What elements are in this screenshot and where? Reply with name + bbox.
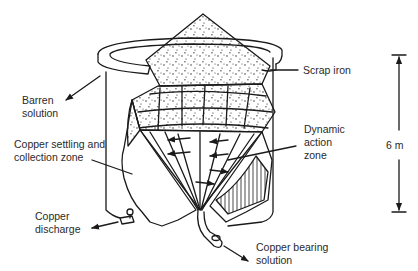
basket-grid — [132, 84, 275, 132]
inlet-pipe — [198, 210, 222, 247]
scrap-iron-pile — [146, 14, 270, 86]
label-copper-discharge: Copper discharge — [35, 210, 81, 236]
copper-discharge-arrow — [92, 222, 118, 228]
label-barren-solution: Barren solution — [22, 94, 58, 120]
label-height-6m: 6 m — [386, 139, 404, 152]
label-copper-bearing-solution: Copper bearing solution — [256, 241, 328, 267]
barren-solution-arrow — [66, 76, 100, 100]
copper-bearing-arrow — [224, 246, 248, 261]
label-scrap-iron: Scrap iron — [303, 64, 351, 77]
height-dimension — [392, 55, 406, 212]
label-dynamic-action-zone: Dynamic action zone — [304, 123, 345, 162]
label-copper-settling-zone: Copper settling and collection zone — [14, 138, 105, 164]
discharge-valve — [120, 209, 134, 224]
